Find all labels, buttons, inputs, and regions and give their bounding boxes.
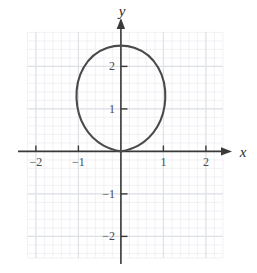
plot-canvas: −2 −1 1 2 2 1 −1 −2 x y (0, 0, 257, 273)
cardioid-plot-figure: −2 −1 1 2 2 1 −1 −2 x y (0, 0, 257, 273)
y-tick-label-1: 1 (109, 102, 115, 116)
y-tick-label-2: 2 (109, 59, 115, 73)
y-tick-label-neg2: −2 (102, 229, 115, 243)
x-tick-label-neg1: −1 (72, 155, 85, 169)
y-tick-label-neg1: −1 (102, 187, 115, 201)
y-axis-label: y (117, 3, 126, 19)
x-tick-label-2: 2 (203, 155, 209, 169)
x-tick-label-neg2: −2 (30, 155, 43, 169)
x-tick-label-1: 1 (160, 155, 166, 169)
x-axis-label: x (239, 144, 247, 160)
